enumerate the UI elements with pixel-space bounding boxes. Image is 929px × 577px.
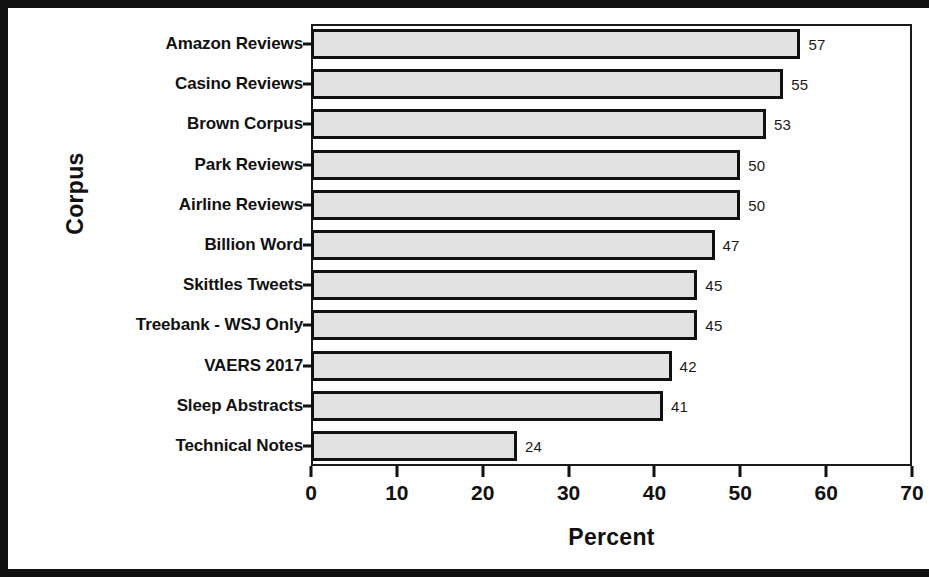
bar-value-label: 55 bbox=[791, 76, 808, 93]
bar-row: 42 bbox=[311, 351, 912, 381]
bar-value-label: 45 bbox=[705, 277, 722, 294]
x-axis-tick-mark bbox=[825, 466, 828, 477]
x-axis-tick-label: 70 bbox=[900, 481, 923, 505]
bar-row: 50 bbox=[311, 190, 912, 220]
bar bbox=[311, 391, 663, 421]
x-axis-tick-label: 60 bbox=[814, 481, 837, 505]
bar-row: 24 bbox=[311, 431, 912, 461]
bar bbox=[311, 310, 697, 340]
x-axis-tick-label: 40 bbox=[643, 481, 666, 505]
bar-row: 45 bbox=[311, 270, 912, 300]
page-border-bottom bbox=[0, 569, 929, 577]
x-axis-tick-label: 30 bbox=[557, 481, 580, 505]
bar bbox=[311, 29, 800, 59]
bar-value-label: 42 bbox=[680, 357, 697, 374]
bar-value-label: 45 bbox=[705, 317, 722, 334]
x-axis-tick-label: 0 bbox=[305, 481, 317, 505]
bar-row: 57 bbox=[311, 29, 912, 59]
x-axis-tick-label: 20 bbox=[471, 481, 494, 505]
x-axis: 010203040506070 bbox=[311, 466, 912, 526]
bar-row: 50 bbox=[311, 150, 912, 180]
bar-row: 53 bbox=[311, 109, 912, 139]
bar bbox=[311, 190, 740, 220]
x-axis-tick-mark bbox=[310, 466, 313, 477]
bar bbox=[311, 150, 740, 180]
x-axis-tick-label: 50 bbox=[729, 481, 752, 505]
bar bbox=[311, 270, 697, 300]
x-axis-tick-mark bbox=[395, 466, 398, 477]
bar-row: 41 bbox=[311, 391, 912, 421]
bar bbox=[311, 109, 766, 139]
bar bbox=[311, 431, 517, 461]
x-axis-tick-mark bbox=[911, 466, 914, 477]
figure: Corpus Amazon ReviewsCasino ReviewsBrown… bbox=[0, 0, 929, 577]
bar-row: 55 bbox=[311, 69, 912, 99]
bar bbox=[311, 230, 715, 260]
x-axis-tick-mark bbox=[567, 466, 570, 477]
x-axis-tick-mark bbox=[481, 466, 484, 477]
y-axis-ticks bbox=[0, 24, 320, 466]
bar-value-label: 53 bbox=[774, 116, 791, 133]
x-axis-tick-mark bbox=[653, 466, 656, 477]
bar-row: 45 bbox=[311, 310, 912, 340]
bar-value-label: 50 bbox=[748, 196, 765, 213]
bar bbox=[311, 69, 783, 99]
page-border-top bbox=[0, 0, 929, 8]
x-axis-tick-mark bbox=[739, 466, 742, 477]
bar-value-label: 47 bbox=[723, 237, 740, 254]
bar-value-label: 57 bbox=[808, 36, 825, 53]
bar bbox=[311, 351, 672, 381]
bar-value-label: 41 bbox=[671, 397, 688, 414]
bars-layer: 5755535050474545424124 bbox=[311, 24, 912, 466]
x-axis-tick-label: 10 bbox=[385, 481, 408, 505]
bar-value-label: 24 bbox=[525, 437, 542, 454]
bar-row: 47 bbox=[311, 230, 912, 260]
bar-value-label: 50 bbox=[748, 156, 765, 173]
x-axis-title: Percent bbox=[311, 524, 912, 551]
